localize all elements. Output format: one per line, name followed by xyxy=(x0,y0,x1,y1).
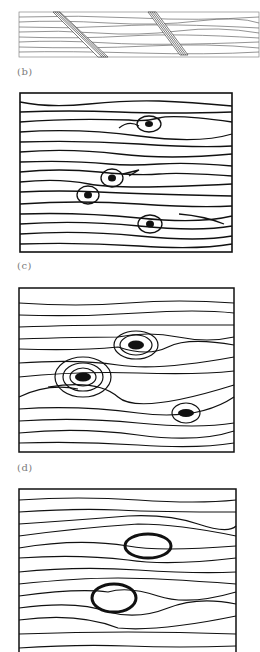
panel-e-illustration xyxy=(18,488,238,652)
panel-label-d: (d) xyxy=(17,462,33,473)
panel-c-illustration xyxy=(19,92,234,254)
panel-label-b: (b) xyxy=(17,66,33,77)
panel-label-c: (c) xyxy=(17,260,32,271)
panel-d-illustration xyxy=(18,287,236,454)
panel-b-illustration xyxy=(18,11,260,59)
